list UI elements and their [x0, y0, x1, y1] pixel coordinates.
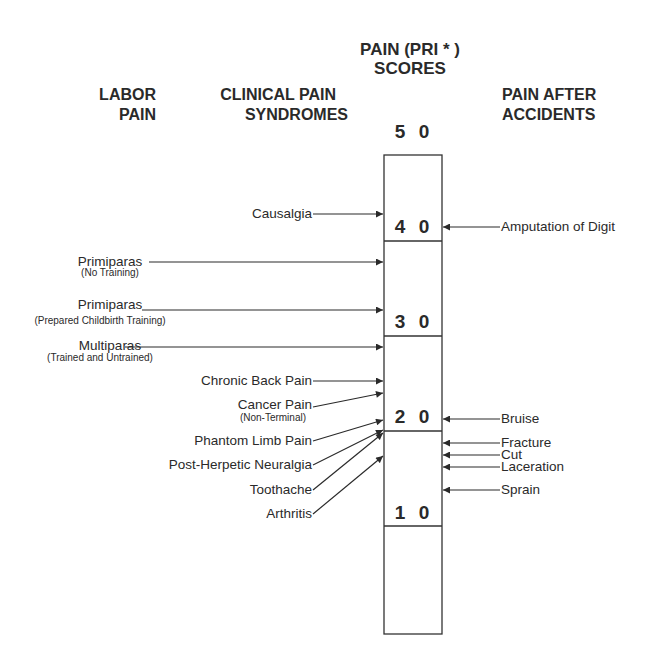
- clinical-header-line2: SYNDROMES: [200, 107, 348, 123]
- clinical-item-label: Causalgia: [150, 207, 312, 221]
- pain-score-diagram: PAIN (PRI * ) SCORES LABOR PAIN CLINICAL…: [0, 0, 662, 653]
- clinical-item-label: Chronic Back Pain: [150, 374, 312, 388]
- clinical-item-sublabel: (Non-Terminal): [150, 413, 306, 423]
- accidents-header-line2: ACCIDENTS: [502, 107, 595, 123]
- arrow-phantom-limb-pain: [313, 420, 383, 441]
- labor-item-sublabel: (Trained and Untrained): [20, 353, 180, 363]
- clinical-item-label: Arthritis: [150, 507, 312, 521]
- accident-item-label: Sprain: [501, 483, 540, 497]
- accidents-header-line1: PAIN AFTER: [502, 87, 596, 103]
- clinical-item-label: Cancer Pain: [150, 398, 312, 412]
- scale-tick-40: 4 0: [380, 217, 448, 236]
- labor-item-label: Primiparas: [40, 298, 180, 312]
- clinical-item-label: Toothache: [150, 483, 312, 497]
- labor-header-line1: LABOR: [60, 87, 156, 103]
- accident-item-label: Amputation of Digit: [501, 220, 615, 234]
- clinical-item-label: Post-Herpetic Neuralgia: [110, 458, 312, 472]
- arrow-arthritis: [313, 456, 383, 514]
- labor-item-sublabel: (No Training): [40, 268, 180, 278]
- labor-header-line2: PAIN: [60, 107, 156, 123]
- arrow-toothache: [313, 433, 383, 490]
- scale-tick-30: 3 0: [380, 312, 448, 331]
- scale-tick-10: 1 0: [380, 503, 448, 522]
- arrow-post-herpetic-neuralgia: [313, 430, 383, 465]
- accident-item-label: Laceration: [501, 460, 564, 474]
- chart-title-line1: PAIN (PRI * ): [340, 41, 480, 58]
- scale-tick-20: 2 0: [380, 407, 448, 426]
- clinical-header-line1: CLINICAL PAIN: [200, 87, 336, 103]
- clinical-item-label: Phantom Limb Pain: [130, 434, 312, 448]
- chart-title-line2: SCORES: [340, 60, 480, 77]
- labor-item-sublabel: (Prepared Childbirth Training): [0, 316, 200, 326]
- labor-item-label: Multiparas: [40, 339, 180, 353]
- arrow-cancer-pain: [313, 393, 383, 407]
- accident-item-label: Bruise: [501, 412, 539, 426]
- scale-tick-50: 5 0: [380, 122, 448, 141]
